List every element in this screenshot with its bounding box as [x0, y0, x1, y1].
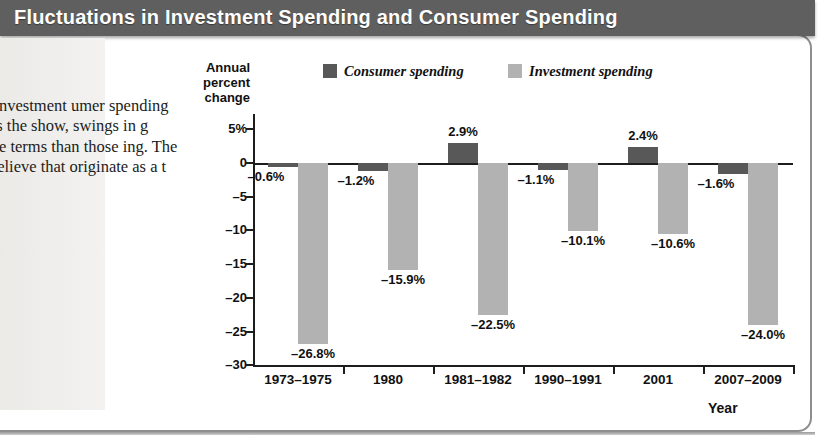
bar-value-label: –1.6% — [677, 176, 755, 191]
caption-panel: the annual investment umer spending cess… — [0, 38, 105, 410]
bar-value-label: –26.8% — [274, 346, 352, 361]
x-axis-tick — [343, 365, 345, 374]
y-axis-tick — [246, 364, 255, 366]
y-axis-tick — [246, 128, 255, 130]
x-axis-title: Year — [708, 400, 738, 416]
bar-value-label: –0.6% — [227, 169, 305, 184]
bar-consumer — [358, 163, 388, 171]
bar-value-label: –22.5% — [454, 317, 532, 332]
y-axis-tick-label: 0 — [197, 155, 247, 170]
y-axis-tick — [246, 331, 255, 333]
y-axis-tick — [246, 229, 255, 231]
y-axis-line — [253, 114, 255, 367]
x-axis-category-label: 2007–2009 — [693, 372, 803, 387]
bar-consumer — [718, 163, 748, 174]
x-axis-tick — [523, 365, 525, 374]
y-axis-tick — [246, 196, 255, 198]
bar-chart: Annualpercentchange Consumer spendingInv… — [188, 52, 798, 412]
bar-consumer — [268, 163, 298, 167]
y-axis-tick-label: –25 — [197, 324, 247, 339]
y-axis-tick-label: –20 — [197, 290, 247, 305]
y-axis-tick-label: –5 — [197, 189, 247, 204]
bar-investment — [298, 163, 328, 344]
x-axis-tick — [433, 365, 435, 374]
figure-title: Fluctuations in Investment Spending and … — [14, 6, 618, 29]
bar-investment — [388, 163, 418, 270]
bar-investment — [568, 163, 598, 231]
bar-consumer — [538, 163, 568, 170]
figure-container: Fluctuations in Investment Spending and … — [0, 0, 831, 447]
bar-consumer — [628, 147, 658, 163]
bar-value-label: –10.1% — [544, 233, 622, 248]
bar-value-label: –1.2% — [317, 173, 395, 188]
y-axis-labels: 5%0–5–10–15–20–25–30 — [191, 52, 247, 372]
y-axis-tick — [246, 297, 255, 299]
x-axis-tick — [703, 365, 705, 374]
y-axis-tick — [246, 263, 255, 265]
bar-value-label: –1.1% — [497, 172, 575, 187]
figure-title-bar: Fluctuations in Investment Spending and … — [0, 0, 815, 36]
bar-investment — [658, 163, 688, 234]
bar-investment — [748, 163, 778, 325]
bar-consumer — [448, 143, 478, 163]
bar-value-label: –15.9% — [364, 272, 442, 287]
y-axis-tick — [246, 162, 255, 164]
bar-value-label: –24.0% — [724, 327, 802, 342]
caption-text: the annual investment umer spending cess… — [0, 96, 182, 198]
zero-baseline — [253, 163, 793, 165]
plot-area: 5%0–5–10–15–20–25–30 –0.6%–26.8%–1.2%–15… — [253, 52, 793, 372]
y-axis-tick-label: –10 — [197, 222, 247, 237]
x-axis-tick — [793, 365, 795, 374]
bar-value-label: –10.6% — [634, 236, 712, 251]
y-axis-tick-label: 5% — [197, 121, 247, 136]
figure-frame-shadow — [0, 432, 815, 435]
bar-value-label: 2.4% — [604, 128, 682, 143]
x-axis-tick — [613, 365, 615, 374]
bar-value-label: 2.9% — [424, 124, 502, 139]
y-axis-tick-label: –30 — [197, 357, 247, 372]
y-axis-tick-label: –15 — [197, 256, 247, 271]
